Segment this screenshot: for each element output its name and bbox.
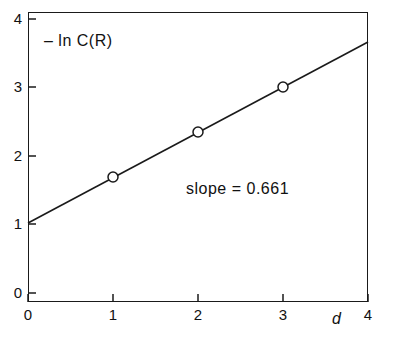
x-tick-label: 2 [188, 306, 208, 323]
x-tick-label: 3 [273, 306, 293, 323]
y-tick-label: 0 [0, 284, 22, 301]
x-axis-ticks [28, 294, 368, 302]
y-tick-label: 3 [0, 78, 22, 95]
x-tick-label: 1 [103, 306, 123, 323]
data-point [278, 82, 288, 92]
data-point [193, 127, 203, 137]
plot-canvas [0, 0, 398, 342]
data-point [108, 172, 118, 182]
y-axis-title: – ln C(R) [44, 32, 113, 50]
chart-figure: 4 3 2 1 0 0 1 2 3 4 – ln C(R) slope = 0.… [0, 0, 398, 342]
y-axis-ticks [28, 19, 36, 293]
x-tick-label: 0 [18, 306, 38, 323]
y-tick-label: 1 [0, 215, 22, 232]
x-axis-title: d [332, 310, 341, 328]
slope-annotation: slope = 0.661 [186, 180, 289, 198]
y-tick-label: 4 [0, 10, 22, 27]
x-tick-label: 4 [358, 306, 378, 323]
y-tick-label: 2 [0, 147, 22, 164]
data-markers [108, 82, 288, 182]
